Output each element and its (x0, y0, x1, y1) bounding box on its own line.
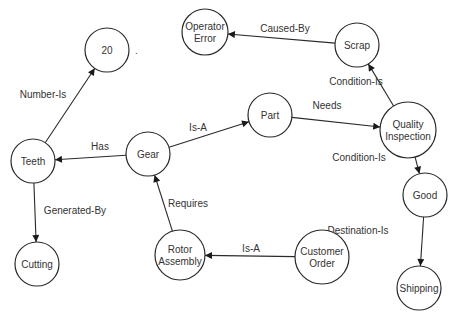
node-n20: 20 (85, 28, 129, 72)
edge-has-arrow (55, 155, 126, 159)
node-label: Gear (137, 149, 160, 160)
node-label: Assembly (158, 256, 201, 267)
edge-destination-is-arrow (420, 217, 423, 266)
edge-label: Has (91, 141, 109, 152)
edge-needs-arrow (292, 117, 380, 127)
node-rotor-assembly: RotorAssembly (155, 230, 205, 280)
node-label: Cutting (21, 259, 53, 270)
node-gear: Gear (126, 132, 170, 176)
node-label: Part (261, 110, 280, 121)
node-scrap: Scrap (335, 23, 379, 67)
node-customer-order: CustomerOrder (295, 230, 349, 284)
edge-label: Generated-By (44, 205, 106, 216)
node-quality-inspection: QualityInspection (380, 102, 436, 158)
node-label: Customer (300, 246, 344, 257)
node-label: Good (413, 190, 437, 201)
node-operator-error: OperatorError (182, 9, 228, 55)
stray-dot-mark: . (135, 45, 138, 56)
node-part: Part (248, 93, 292, 137)
edge-condition-is-arrow (415, 157, 419, 174)
edge-number-is-arrow (45, 68, 95, 142)
node-label: Quality (392, 119, 423, 130)
edge-label: Is-A (189, 122, 207, 133)
edge-is-a-arrow (169, 122, 249, 148)
node-label: Teeth (21, 156, 45, 167)
node-shipping: Shipping (397, 266, 441, 310)
edge-label: Caused-By (260, 23, 309, 34)
node-label: 20 (101, 45, 113, 56)
node-teeth: Teeth (11, 139, 55, 183)
node-label: Shipping (400, 283, 439, 294)
edge-label: Condition-Is (332, 152, 385, 163)
edge-label: Is-A (242, 243, 260, 254)
edge-is-a-arrow (205, 255, 295, 256)
edge-caused-by-arrow (228, 34, 335, 43)
node-good: Good (403, 173, 447, 217)
node-label: Inspection (385, 131, 431, 142)
edge-generated-by-arrow (34, 183, 36, 242)
semantic-network-diagram: Number-IsHasIs-AGenerated-ByRequiresIs-A… (0, 0, 456, 320)
edge-label: Condition-Is (329, 76, 382, 87)
node-cutting: Cutting (15, 242, 59, 286)
node-label: Error (194, 33, 217, 44)
edge-label: Number-Is (20, 89, 67, 100)
edge-label: Needs (313, 100, 342, 111)
edge-label: Requires (168, 198, 208, 209)
node-label: Operator (185, 21, 225, 32)
edge-labels-layer: Number-IsHasIs-AGenerated-ByRequiresIs-A… (20, 23, 389, 254)
node-label: Scrap (344, 40, 371, 51)
node-label: Rotor (168, 244, 193, 255)
node-label: Order (309, 258, 335, 269)
